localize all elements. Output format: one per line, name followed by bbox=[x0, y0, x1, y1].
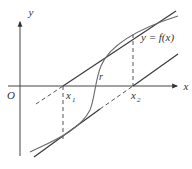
origin-label: O bbox=[7, 89, 15, 101]
y-axis-label: y bbox=[28, 6, 34, 18]
curve-label: y = f(x) bbox=[140, 31, 174, 44]
root-label: r bbox=[99, 71, 103, 82]
svg-text:2: 2 bbox=[137, 96, 141, 104]
svg-text:x: x bbox=[130, 89, 136, 101]
x2-label: x 2 bbox=[130, 89, 141, 104]
x-axis-label: x bbox=[183, 80, 189, 92]
tangent-line-lower-dashed bbox=[100, 86, 133, 109]
tangent-line-lower-right bbox=[133, 54, 178, 86]
x1-label: x 1 bbox=[65, 89, 76, 104]
tangent-line-upper-extension bbox=[36, 86, 63, 104]
svg-text:x: x bbox=[65, 89, 71, 101]
svg-text:1: 1 bbox=[72, 96, 76, 104]
newton-method-diagram: y x O y = f(x) r x 1 x 2 bbox=[0, 0, 192, 169]
